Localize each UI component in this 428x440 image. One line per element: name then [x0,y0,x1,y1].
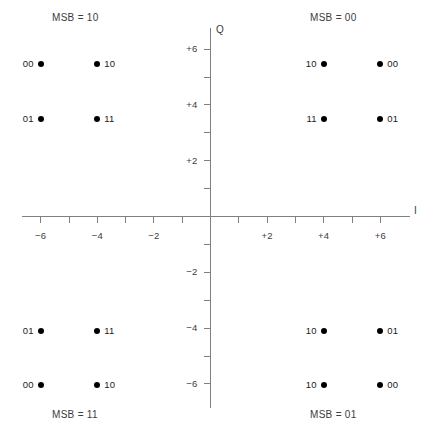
y-axis-tick-label: +4 [158,99,198,110]
constellation-point [94,382,100,388]
constellation-point-label: 00 [0,58,34,69]
y-axis-tick [204,244,211,245]
constellation-point [94,328,100,334]
x-axis-tick-label: −4 [77,230,117,241]
constellation-diagram: MSB = 10 MSB = 00 MSB = 11 MSB = 01 I Q … [0,0,428,440]
y-axis-tick [204,132,211,133]
y-axis-tick [204,328,211,329]
x-axis-tick [153,217,154,223]
constellation-point-label: 11 [104,113,144,124]
x-axis-tick [295,217,296,223]
constellation-point [377,116,383,122]
y-axis-tick [204,188,211,189]
x-axis-tick [267,217,268,223]
x-axis-tick [40,217,41,223]
y-axis-tick [204,49,211,50]
constellation-point-label: 01 [387,325,427,336]
y-axis-tick [204,104,211,105]
y-axis-tick [204,160,211,161]
x-axis-tick-label: +2 [247,230,287,241]
constellation-point-label: 00 [0,379,34,390]
constellation-point [321,116,327,122]
constellation-point-label: 01 [0,113,34,124]
y-axis-tick [204,272,211,273]
x-axis-tick [352,217,353,223]
constellation-point [94,116,100,122]
constellation-point-label: 01 [387,113,427,124]
constellation-point [377,61,383,67]
quadrant-title-lower-right: MSB = 01 [310,409,357,420]
constellation-point [38,116,44,122]
x-axis-tick [238,217,239,223]
constellation-point [377,382,383,388]
constellation-point-label: 10 [104,379,144,390]
y-axis-tick-label: −4 [158,322,198,333]
x-axis-tick [380,217,381,223]
x-axis-tick-label: +4 [304,230,344,241]
y-axis-tick [204,356,211,357]
x-axis-tick [182,217,183,223]
constellation-point [38,61,44,67]
y-axis-tick [204,383,211,384]
y-axis-line [210,28,211,408]
constellation-point-label: 00 [387,58,427,69]
constellation-point [38,382,44,388]
constellation-point-label: 01 [0,325,34,336]
x-axis-tick-label: +6 [360,230,400,241]
constellation-point-label: 10 [104,58,144,69]
constellation-point-label: 10 [277,325,317,336]
constellation-point [321,382,327,388]
constellation-point-label: 10 [277,58,317,69]
quadrant-title-lower-left: MSB = 11 [52,409,98,420]
constellation-point-label: 10 [277,379,317,390]
constellation-point-label: 11 [104,325,144,336]
quadrant-title-upper-left: MSB = 10 [52,12,99,23]
x-axis-tick-label: −6 [21,230,61,241]
constellation-point [38,328,44,334]
x-axis-tick [97,217,98,223]
y-axis-tick [204,300,211,301]
constellation-point [94,61,100,67]
constellation-point-label: 11 [277,113,317,124]
y-axis-tick-label: −6 [158,378,198,389]
y-axis-tick [204,77,211,78]
x-axis-tick [323,217,324,223]
x-axis-tick-label: −2 [134,230,174,241]
x-axis-tick [125,217,126,223]
constellation-point [321,328,327,334]
constellation-point [321,61,327,67]
y-axis-tick-label: +6 [158,43,198,54]
x-axis-tick [69,217,70,223]
x-axis-label: I [414,205,417,216]
constellation-point [377,328,383,334]
constellation-point-label: 00 [387,379,427,390]
y-axis-tick-label: −2 [158,266,198,277]
quadrant-title-upper-right: MSB = 00 [310,12,357,23]
y-axis-label: Q [216,24,224,35]
y-axis-tick-label: +2 [158,155,198,166]
